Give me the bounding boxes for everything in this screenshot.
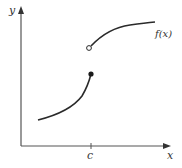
x-axis-label: x xyxy=(167,149,174,162)
function-label: f(x) xyxy=(154,28,172,39)
filled-point xyxy=(88,71,93,76)
open-point xyxy=(87,46,92,51)
diagram-canvas: y x c f(x) xyxy=(0,0,182,168)
upper-branch-curve xyxy=(91,22,155,46)
y-axis-arrow-icon xyxy=(18,6,24,14)
lower-branch-curve xyxy=(38,74,91,120)
y-axis-label: y xyxy=(8,4,16,17)
c-tick-label: c xyxy=(87,149,93,162)
